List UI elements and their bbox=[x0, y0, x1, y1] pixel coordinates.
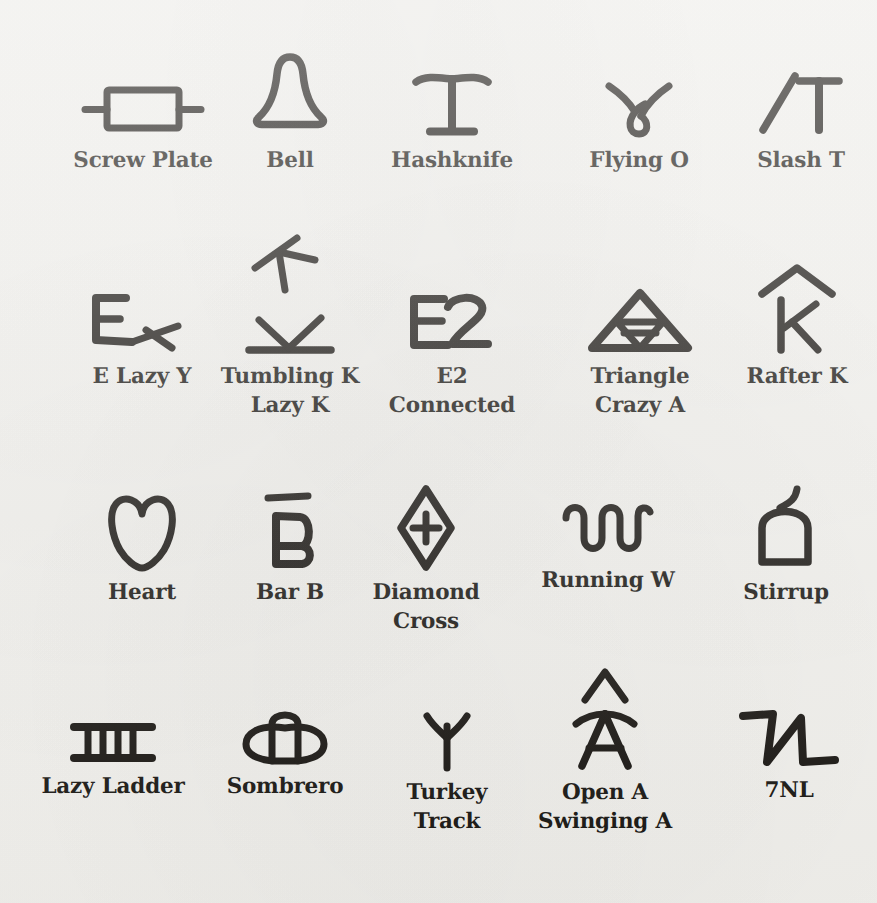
brand-label: Flying O bbox=[589, 146, 688, 175]
brand-label: Triangle Crazy A bbox=[591, 362, 690, 420]
lazy-ladder-brand-icon bbox=[68, 718, 158, 766]
brand-label: Diamond Cross bbox=[372, 578, 479, 636]
brand-item-hashknife: Hashknife bbox=[372, 68, 532, 175]
screw-plate-brand-icon bbox=[81, 78, 205, 140]
flying-o-brand-icon bbox=[597, 76, 681, 140]
brand-item-flying-o: Flying O bbox=[569, 76, 709, 175]
brand-label: Screw Plate bbox=[73, 146, 212, 175]
turkey-track-brand-icon bbox=[419, 712, 475, 772]
bell-brand-icon bbox=[242, 52, 338, 140]
brand-item-open-a-swinging-a: Open A Swinging A bbox=[529, 668, 681, 836]
open-a-swinging-a-brand-icon bbox=[562, 668, 648, 772]
brand-item-triangle-crazy-a: Triangle Crazy A bbox=[569, 286, 711, 420]
brand-label: Heart bbox=[108, 578, 176, 607]
brand-item-bar-b: Bar B bbox=[230, 490, 350, 607]
brand-label: Open A Swinging A bbox=[538, 778, 672, 836]
brand-label: Bell bbox=[266, 146, 313, 175]
brand-label: Tumbling K Lazy K bbox=[221, 362, 360, 420]
running-w-brand-icon bbox=[560, 498, 656, 560]
brand-item-tumbling-k-lazy-k: Tumbling K Lazy K bbox=[213, 232, 367, 420]
brand-item-running-w: Running W bbox=[536, 498, 680, 595]
brand-label: Bar B bbox=[256, 578, 324, 607]
brand-label: Rafter K bbox=[746, 362, 847, 391]
brand-item-e-lazy-y: E Lazy Y bbox=[62, 290, 222, 391]
seven-n-l-brand-icon bbox=[737, 706, 841, 770]
brand-item-turkey-track: Turkey Track bbox=[387, 712, 507, 836]
slash-t-brand-icon bbox=[755, 68, 847, 140]
e-lazy-y-brand-icon bbox=[86, 290, 198, 356]
brand-label: Lazy Ladder bbox=[41, 772, 184, 801]
bar-b-brand-icon bbox=[260, 490, 320, 572]
diamond-cross-brand-icon bbox=[395, 484, 457, 572]
brand-label: E2 Connected bbox=[389, 362, 515, 420]
brand-item-heart: Heart bbox=[72, 492, 212, 607]
cattle-brands-plate: Screw Plate Bell Hashknife Flyin bbox=[0, 0, 877, 903]
sombrero-brand-icon bbox=[242, 706, 328, 766]
brand-label: Stirrup bbox=[743, 578, 829, 607]
heart-brand-icon bbox=[106, 492, 178, 572]
triangle-crazy-a-brand-icon bbox=[584, 286, 696, 356]
rafter-k-brand-icon bbox=[754, 262, 840, 356]
brand-label: 7NL bbox=[764, 776, 813, 805]
brand-item-diamond-cross: Diamond Cross bbox=[366, 484, 486, 636]
brand-item-sombrero: Sombrero bbox=[215, 706, 355, 801]
brand-label: Turkey Track bbox=[407, 778, 488, 836]
e2-connected-brand-icon bbox=[404, 290, 500, 356]
brand-item-e2-connected: E2 Connected bbox=[382, 290, 522, 420]
brand-item-bell: Bell bbox=[220, 52, 360, 175]
hashknife-brand-icon bbox=[406, 68, 498, 140]
brand-label: Slash T bbox=[757, 146, 844, 175]
stirrup-brand-icon bbox=[750, 484, 822, 572]
brand-label: Running W bbox=[541, 566, 674, 595]
brand-label: Sombrero bbox=[227, 772, 344, 801]
brand-label: Hashknife bbox=[391, 146, 513, 175]
brand-item-screw-plate: Screw Plate bbox=[63, 78, 223, 175]
brand-label: E Lazy Y bbox=[93, 362, 192, 391]
brand-item-seven-n-l: 7NL bbox=[722, 706, 856, 805]
brand-item-slash-t: Slash T bbox=[736, 68, 866, 175]
brand-item-rafter-k: Rafter K bbox=[731, 262, 863, 391]
brand-item-lazy-ladder: Lazy Ladder bbox=[33, 718, 193, 801]
tumbling-k-lazy-k-brand-icon bbox=[235, 232, 345, 356]
brand-item-stirrup: Stirrup bbox=[726, 484, 846, 607]
